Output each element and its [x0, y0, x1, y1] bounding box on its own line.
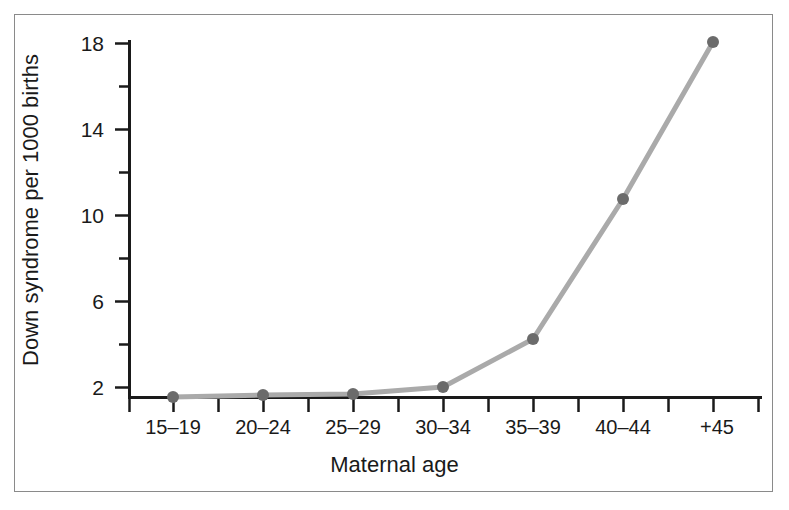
data-line — [173, 42, 713, 397]
data-markers — [167, 36, 719, 403]
y-tick-label: 6 — [64, 291, 104, 312]
x-tick-label: 25–29 — [325, 417, 381, 437]
x-tick-label: 35–39 — [505, 417, 561, 437]
y-tick-label: 14 — [64, 119, 104, 140]
y-major-ticks — [115, 44, 129, 388]
x-tick-label: 15–19 — [145, 417, 201, 437]
x-tick-label: +45 — [700, 417, 734, 437]
x-axis-tick-labels: 15–19 20–24 25–29 30–34 35–39 40–44 +45 — [0, 417, 789, 451]
data-point — [347, 388, 359, 400]
data-point — [167, 391, 179, 403]
data-point — [527, 333, 539, 345]
y-tick-label: 10 — [64, 205, 104, 226]
x-tick-label: 20–24 — [235, 417, 291, 437]
y-axis-title-wrap: Down syndrome per 1000 births — [14, 0, 48, 420]
x-tick-label: 40–44 — [595, 417, 651, 437]
y-axis-title: Down syndrome per 1000 births — [18, 54, 44, 366]
data-point — [257, 389, 269, 401]
data-point — [437, 381, 449, 393]
x-tick-label: 30–34 — [415, 417, 471, 437]
data-point — [617, 193, 629, 205]
x-axis-title: Maternal age — [0, 452, 789, 478]
y-tick-label: 18 — [64, 33, 104, 54]
y-tick-label: 2 — [64, 377, 104, 398]
chart-figure: 18 14 10 6 2 15–19 20–24 25–29 30–34 35–… — [0, 0, 789, 510]
x-axis-ticks — [130, 398, 759, 412]
data-point — [707, 36, 719, 48]
